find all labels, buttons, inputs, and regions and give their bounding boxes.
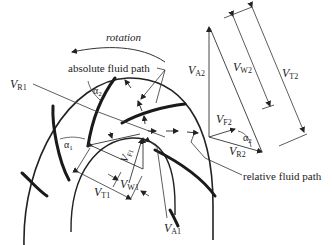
alpha2-right-label: α2	[243, 132, 252, 145]
inlet-triangle	[90, 132, 143, 183]
vw1-label: VW1	[120, 177, 139, 192]
va1-label: VA1	[164, 221, 181, 236]
blades	[22, 78, 215, 226]
rotation-label: rotation	[106, 31, 142, 43]
vf1-label: VF1	[118, 146, 136, 165]
impeller-diagram: rotation absolute fluid path relative fl…	[0, 0, 332, 245]
va2-label: VA2	[188, 63, 205, 78]
alpha2-top-label: α2	[93, 85, 102, 98]
vr1-label: VR1	[10, 77, 27, 92]
blade-5	[155, 150, 215, 196]
alpha1-label: α1	[64, 139, 73, 152]
vw2-dimension	[224, 7, 274, 109]
vt2-dimension	[252, 7, 307, 146]
relative-flow-arrows	[148, 131, 198, 133]
vf2-label: VF2	[216, 112, 232, 127]
relative-path-label: relative fluid path	[243, 170, 322, 182]
rotation-arrow	[72, 48, 165, 62]
outlet-triangle	[209, 27, 262, 152]
absolute-path-label: absolute fluid path	[68, 62, 150, 74]
vr1-leader-2	[93, 110, 165, 137]
blade-3	[22, 173, 47, 196]
vr1-leader	[33, 84, 93, 110]
vw2-label: VW2	[233, 60, 252, 75]
vt2-label: VT2	[282, 66, 298, 81]
blade-4	[122, 104, 185, 123]
